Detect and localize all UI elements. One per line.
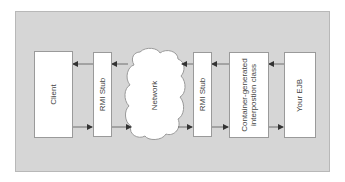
- rmi-stub-right-label: RMI Stub: [198, 78, 207, 111]
- container-class-label: Container-generated interpostion class: [240, 58, 258, 131]
- your-ejb-box: Your EJB: [284, 52, 316, 138]
- network-cloud: Network: [126, 50, 184, 140]
- client-label: Client: [49, 84, 58, 104]
- client-box: Client: [34, 51, 73, 138]
- rmi-stub-left-box: RMI Stub: [93, 52, 112, 137]
- rmi-stub-right-box: RMI Stub: [193, 52, 212, 137]
- your-ejb-label: Your EJB: [296, 78, 305, 111]
- rmi-stub-left-label: RMI Stub: [98, 78, 107, 111]
- network-label: Network: [151, 80, 160, 109]
- container-class-label-line1: Container-generated: [240, 58, 249, 131]
- container-class-box: Container-generated interpostion class: [229, 52, 269, 138]
- container-class-label-line2: interpostion class: [249, 58, 258, 131]
